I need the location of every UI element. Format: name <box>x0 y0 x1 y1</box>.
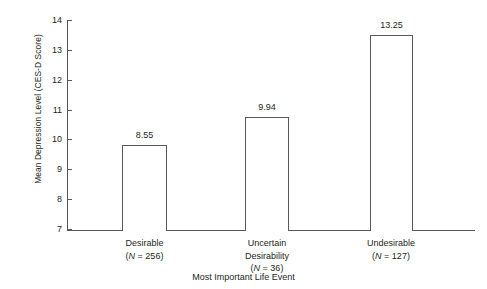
bar-undesirable <box>370 35 413 231</box>
bar-uncertain-desirability <box>245 117 289 231</box>
y-tick-mark <box>67 80 72 81</box>
y-tick-label: 7 <box>36 225 62 234</box>
y-tick-mark <box>67 50 72 51</box>
bar-value-label: 9.94 <box>234 103 300 112</box>
category-name: Uncertain <box>217 237 317 250</box>
y-tick-mark <box>67 199 72 200</box>
y-tick-mark <box>67 169 72 170</box>
y-tick-label: 9 <box>36 165 62 174</box>
y-tick-label: 13 <box>36 46 62 55</box>
category-label-desirable: Desirable (N = 256) <box>95 237 195 262</box>
bar-value-label: 8.55 <box>112 131 177 140</box>
y-tick-mark <box>67 20 72 21</box>
bar-value-label: 13.25 <box>358 21 425 30</box>
y-tick-label: 11 <box>36 106 62 115</box>
bar-chart-figure: Mean Depression Level (CES-D Score) 14 1… <box>0 0 487 289</box>
category-label-uncertain-desirability: Uncertain Desirability (N = 36) <box>217 237 317 275</box>
category-sample-size: (N = 256) <box>95 250 195 263</box>
y-tick-mark <box>67 110 72 111</box>
y-tick-label: 14 <box>36 16 62 25</box>
x-axis-title: Most Important Life Event <box>0 272 487 282</box>
category-name: Undesirable <box>341 237 441 250</box>
category-name: Desirable <box>95 237 195 250</box>
y-tick-mark <box>67 139 72 140</box>
category-sample-size: (N = 127) <box>341 250 441 263</box>
y-tick-label: 12 <box>36 76 62 85</box>
y-tick-label: 8 <box>36 195 62 204</box>
y-tick-label: 10 <box>36 135 62 144</box>
category-label-undesirable: Undesirable (N = 127) <box>341 237 441 262</box>
category-name-line2: Desirability <box>217 250 317 263</box>
bar-desirable <box>122 145 167 231</box>
